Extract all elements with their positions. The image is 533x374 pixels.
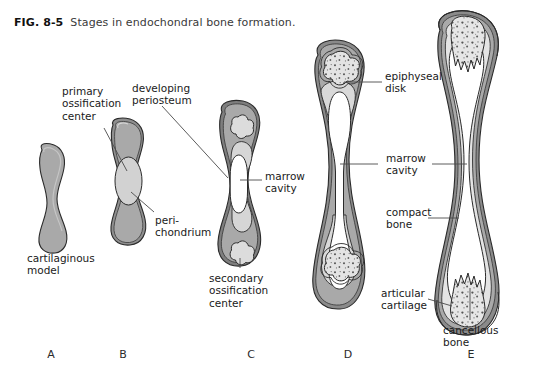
stage-letter-b: B xyxy=(113,348,133,361)
stage-b-primary-ossification xyxy=(111,118,146,245)
label-cancellous-bone: cancellous bone xyxy=(443,324,498,349)
label-epiphyseal-disk: epiphyseal disk xyxy=(385,70,442,95)
label-cartilaginous-model: cartilaginous model xyxy=(27,252,95,277)
label-marrow-cavity-de: marrow cavity xyxy=(386,152,426,177)
stage-letter-e: E xyxy=(461,348,481,361)
label-articular-cartilage: articular cartilage xyxy=(381,287,427,312)
label-compact-bone: compact bone xyxy=(386,206,431,231)
stage-a-cartilaginous-model xyxy=(39,144,67,254)
stage-d-epiphyseal-disks xyxy=(313,40,365,309)
label-secondary-ossification-center: secondary ossification center xyxy=(209,272,268,309)
label-marrow-cavity-c: marrow cavity xyxy=(265,170,305,195)
stage-c-marrow-cavity xyxy=(230,155,247,213)
label-primary-ossification-center: primary ossification center xyxy=(62,85,121,122)
stage-e-cancellous-top xyxy=(451,16,485,72)
leader-developing-periosteum xyxy=(162,106,228,178)
label-perichondrium: peri- chondrium xyxy=(155,214,211,239)
stage-e-cancellous-bottom xyxy=(450,273,485,327)
stage-letter-c: C xyxy=(241,348,261,361)
stage-letter-a: A xyxy=(41,348,61,361)
stage-e-mature-bone xyxy=(435,11,499,335)
stage-letter-d: D xyxy=(338,348,358,361)
stage-c-secondary-ossification xyxy=(218,100,261,266)
label-developing-periosteum: developing periosteum xyxy=(132,82,192,107)
leader-lines xyxy=(104,82,470,320)
figure-root: FIG. 8-5Stages in endochondral bone form… xyxy=(0,0,533,374)
